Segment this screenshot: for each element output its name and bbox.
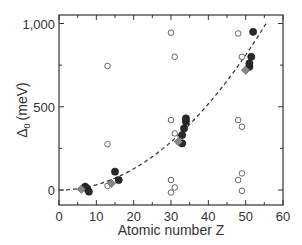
open-circle-point xyxy=(235,31,241,37)
plot-frame xyxy=(59,15,283,205)
y-axis-title: Δ0(meV) xyxy=(14,82,32,138)
filled-circle-point xyxy=(85,188,92,195)
open-circle-point xyxy=(172,131,178,137)
open-circle-point xyxy=(235,117,241,123)
open-circle-point xyxy=(172,54,178,60)
data-points xyxy=(77,28,257,195)
open-circle-point xyxy=(168,177,174,183)
open-circle-point xyxy=(168,30,174,36)
open-circle-point xyxy=(239,188,245,194)
open-circle-point xyxy=(105,63,111,69)
axis-ticks xyxy=(59,15,283,205)
y-axis-title-subscript: 0 xyxy=(22,123,32,128)
y-axis-title-symbol: Δ xyxy=(14,128,30,137)
filled-circle-point xyxy=(182,115,189,122)
open-circle-point xyxy=(239,54,245,60)
x-tick-label: 0 xyxy=(55,209,62,224)
y-tick-label: 1,000 xyxy=(22,17,55,32)
x-tick-label: 10 xyxy=(89,209,103,224)
open-circle-point xyxy=(235,177,241,183)
filled-circle-point xyxy=(250,28,257,35)
filled-circle-point xyxy=(179,131,186,138)
open-circle-point xyxy=(239,124,245,130)
open-circle-point xyxy=(172,185,178,191)
filled-circle-point xyxy=(248,53,255,60)
filled-circle-point xyxy=(111,168,118,175)
open-circle-point xyxy=(168,117,174,123)
y-tick-label: 0 xyxy=(48,183,55,198)
open-circle-point xyxy=(239,171,245,177)
chart: 0102030405060 05001,000 Atomic number Z … xyxy=(0,0,302,245)
x-tick-label: 50 xyxy=(238,209,252,224)
y-tick-label: 500 xyxy=(33,100,55,115)
open-circle-point xyxy=(105,141,111,147)
filled-circle-point xyxy=(180,125,187,132)
svg-text:Δ0(meV): Δ0(meV) xyxy=(14,82,32,138)
filled-circle-point xyxy=(115,176,122,183)
x-tick-label: 60 xyxy=(276,209,290,224)
open-circle-point xyxy=(168,190,174,196)
filled-circle-point xyxy=(246,60,253,67)
y-axis-title-unit: (meV) xyxy=(14,82,30,120)
fit-curve xyxy=(59,23,266,190)
x-axis-title: Atomic number Z xyxy=(118,222,225,238)
